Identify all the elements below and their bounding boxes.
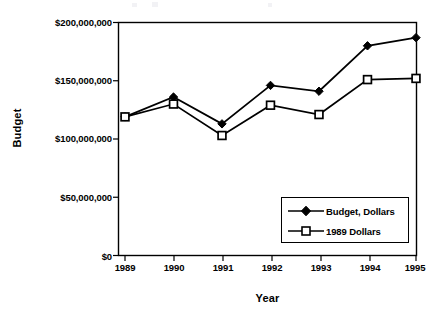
series-layer — [121, 33, 420, 139]
legend-item-label: Budget, Dollars — [326, 206, 395, 217]
data-point-open-square — [315, 111, 323, 119]
data-point-open-square — [218, 132, 226, 140]
open-square-icon — [286, 223, 326, 239]
chart-figure: Budget Year $200,000,000 $150,000,000 $1… — [0, 0, 443, 316]
filled-diamond-icon — [286, 203, 326, 219]
data-point-open-square — [412, 75, 420, 83]
legend-item: Budget, Dollars — [282, 202, 410, 220]
data-point-open-square — [170, 100, 178, 108]
data-point-filled-diamond — [412, 33, 420, 41]
legend-item: 1989 Dollars — [282, 222, 410, 240]
data-point-open-square — [121, 113, 129, 121]
chart-legend: Budget, Dollars 1989 Dollars — [281, 197, 409, 243]
legend-item-label: 1989 Dollars — [326, 226, 381, 237]
y-axis-ticks — [113, 23, 119, 256]
x-axis-ticks — [125, 256, 416, 262]
data-point-open-square — [364, 76, 372, 84]
data-point-open-square — [267, 101, 275, 109]
plot-area — [0, 0, 443, 316]
